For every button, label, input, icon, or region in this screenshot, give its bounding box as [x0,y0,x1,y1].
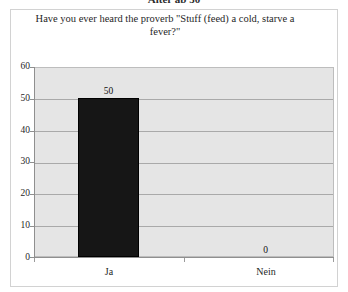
y-tick-mark-20 [30,194,34,195]
bar-value-label-nein: 0 [235,245,296,255]
y-tick-label-0: 0 [8,253,30,263]
y-tick-label-10: 10 [8,221,30,231]
y-tick-mark-60 [30,67,34,68]
y-tick-label-40: 40 [8,126,30,136]
x-tick-label-ja: Ja [69,266,149,277]
x-tick-mark-mid [184,258,185,262]
y-tick-label-20: 20 [8,189,30,199]
bar-ja[interactable] [78,98,139,257]
y-tick-mark-40 [30,131,34,132]
y-tick-label-50: 50 [8,94,30,104]
x-tick-mark-right [333,258,334,262]
y-axis-labels: 60 50 40 30 20 10 0 [4,0,30,292]
page-heading: Alter ab 50 [0,0,348,4]
y-tick-label-30: 30 [8,157,30,167]
x-tick-label-nein: Nein [226,266,306,277]
y-tick-mark-10 [30,226,34,227]
y-tick-mark-50 [30,99,34,100]
y-axis-line [34,67,35,258]
chart-title: Have you ever heard the proverb "Stuff (… [24,13,306,38]
y-tick-label-60: 60 [8,62,30,72]
x-tick-mark-left [34,258,35,262]
bar-value-label-ja: 50 [78,86,139,96]
y-tick-mark-30 [30,162,34,163]
